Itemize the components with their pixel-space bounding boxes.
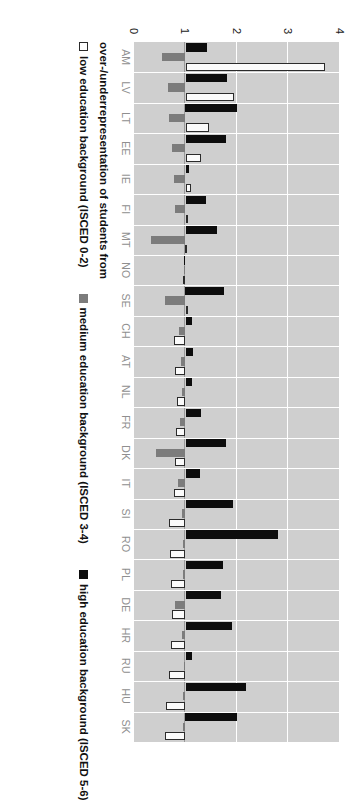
category-label-ie: IE bbox=[120, 174, 132, 184]
low-swatch bbox=[80, 42, 89, 51]
category-label-mt: MT bbox=[120, 232, 132, 248]
group-separator bbox=[134, 468, 340, 469]
bar-sk-med bbox=[183, 723, 185, 731]
group-separator bbox=[134, 651, 340, 652]
bar-at-med bbox=[181, 357, 185, 365]
bar-se-high bbox=[186, 287, 225, 295]
bar-fr-med bbox=[180, 418, 185, 426]
group-separator bbox=[134, 346, 340, 347]
bar-se-low bbox=[186, 306, 188, 314]
category-label-nl: NL bbox=[120, 385, 132, 399]
bar-hr-med bbox=[182, 631, 185, 639]
gridline bbox=[339, 42, 340, 742]
legend-label: high education background (ISCED 5-6) bbox=[78, 584, 90, 801]
bar-ro-low bbox=[170, 550, 185, 558]
bar-mt-med bbox=[151, 236, 186, 244]
group-separator bbox=[134, 712, 340, 713]
legend-item-high: high education background (ISCED 5-6) bbox=[78, 570, 90, 801]
category-label-ru: RU bbox=[120, 658, 132, 674]
bar-pl-med bbox=[183, 570, 185, 578]
medium-swatch bbox=[80, 294, 89, 303]
bar-ch-med bbox=[179, 327, 185, 335]
group-separator bbox=[134, 72, 340, 73]
bar-ie-high bbox=[186, 165, 189, 173]
bar-no-high bbox=[185, 256, 186, 264]
category-label-dk: DK bbox=[120, 445, 132, 460]
bar-de-med bbox=[175, 601, 185, 609]
bar-mt-high bbox=[186, 226, 218, 234]
legend-item-low: low education background (ISCED 0-2) bbox=[78, 42, 90, 268]
gridline bbox=[236, 42, 237, 742]
bar-nl-high bbox=[186, 378, 192, 386]
category-axis: AMLVLTEEIEFIMTNOSECHATNLFRDKITSIROPLDEHR… bbox=[114, 42, 132, 742]
category-label-no: NO bbox=[120, 262, 132, 278]
group-separator bbox=[134, 285, 340, 286]
bar-pl-low bbox=[171, 580, 185, 588]
legend-item-med: medium education background (ISCED 3-4) bbox=[78, 294, 90, 544]
bar-lv-low bbox=[186, 93, 235, 101]
bar-ru-high bbox=[186, 652, 192, 660]
category-label-sk: SK bbox=[120, 720, 132, 734]
group-separator bbox=[134, 194, 340, 195]
category-label-am: AM bbox=[120, 49, 132, 65]
bar-si-med bbox=[182, 509, 186, 517]
bar-ie-low bbox=[186, 184, 191, 192]
bar-fr-high bbox=[186, 409, 201, 417]
bar-hr-high bbox=[186, 622, 232, 630]
category-label-hu: HU bbox=[120, 689, 132, 705]
category-label-at: AT bbox=[120, 355, 132, 368]
bar-ee-med bbox=[172, 144, 185, 152]
group-separator bbox=[134, 407, 340, 408]
bar-ru-low bbox=[169, 671, 185, 679]
bar-fr-low bbox=[176, 428, 185, 436]
group-separator bbox=[134, 255, 340, 256]
bar-de-low bbox=[172, 610, 185, 618]
group-separator bbox=[134, 316, 340, 317]
group-separator bbox=[134, 133, 340, 134]
bar-at-high bbox=[186, 348, 194, 356]
bar-si-low bbox=[169, 519, 185, 527]
value-tick-label: 2 bbox=[231, 28, 243, 34]
bar-am-low bbox=[186, 63, 325, 71]
bar-am-high bbox=[186, 43, 208, 51]
bar-lv-med bbox=[168, 83, 186, 91]
category-label-fr: FR bbox=[120, 415, 132, 429]
bar-nl-med bbox=[182, 388, 186, 396]
value-tick-label: 4 bbox=[334, 28, 346, 34]
category-label-de: DE bbox=[120, 598, 132, 613]
group-separator bbox=[134, 225, 340, 226]
bar-sk-high bbox=[186, 713, 238, 721]
category-label-lt: LT bbox=[120, 112, 132, 124]
bar-ee-high bbox=[186, 135, 226, 143]
bar-dk-med bbox=[156, 449, 186, 457]
category-label-si: SI bbox=[120, 509, 132, 519]
bar-sk-low bbox=[165, 732, 186, 740]
category-label-fi: FI bbox=[120, 205, 132, 215]
bar-no-med bbox=[184, 266, 186, 274]
category-label-ch: CH bbox=[120, 323, 132, 339]
bar-hu-high bbox=[186, 683, 247, 691]
bar-fi-high bbox=[186, 196, 207, 204]
bar-ee-low bbox=[186, 154, 201, 162]
group-separator bbox=[134, 499, 340, 500]
bar-no-low bbox=[184, 276, 186, 284]
plot-area bbox=[134, 42, 340, 742]
bar-dk-high bbox=[186, 439, 226, 447]
group-separator bbox=[134, 559, 340, 560]
bar-si-high bbox=[186, 500, 233, 508]
bar-hr-low bbox=[171, 641, 185, 649]
bar-at-low bbox=[175, 367, 185, 375]
bar-mt-low bbox=[185, 245, 187, 253]
category-label-hr: HR bbox=[120, 628, 132, 644]
bar-it-med bbox=[178, 479, 186, 487]
bar-ch-low bbox=[174, 336, 185, 344]
axis-title: over-/underrepresentation of students fr… bbox=[98, 42, 110, 279]
category-label-lv: LV bbox=[120, 81, 132, 93]
group-separator bbox=[134, 103, 340, 104]
bar-se-med bbox=[165, 296, 186, 304]
group-separator bbox=[134, 377, 340, 378]
category-label-it: IT bbox=[120, 478, 132, 488]
category-label-se: SE bbox=[120, 293, 132, 307]
group-separator bbox=[134, 590, 340, 591]
